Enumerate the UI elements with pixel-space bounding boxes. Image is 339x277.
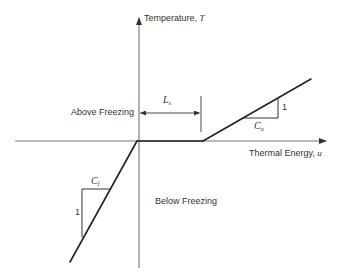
frozen-segment [70, 141, 137, 262]
x-axis-label-text: Thermal Energy, [249, 148, 317, 158]
frozen-slope-rise: 1 [75, 207, 80, 217]
latent-heat-subscript: s [169, 100, 171, 106]
x-axis-label: Thermal Energy, u [249, 148, 322, 158]
unfrozen-slope-label: Cu [254, 121, 264, 134]
y-axis-label-text: Temperature, [144, 13, 200, 23]
phase-change-diagram [0, 0, 339, 277]
below-freezing-label: Below Freezing [155, 196, 217, 206]
unfrozen-slope-rise: 1 [282, 102, 287, 112]
frozen-slope-subscript: f [98, 181, 100, 187]
y-axis-label: Temperature, T [144, 13, 205, 23]
unfrozen-slope-subscript: u [261, 126, 264, 132]
frozen-slope-symbol: C [91, 175, 98, 186]
x-axis-symbol: u [317, 148, 322, 158]
above-freezing-label: Above Freezing [71, 107, 134, 117]
y-axis-symbol: T [200, 13, 205, 23]
latent-heat-label: Ls [163, 95, 171, 108]
frozen-slope-label: Cf [91, 176, 99, 189]
unfrozen-slope-symbol: C [254, 120, 261, 131]
